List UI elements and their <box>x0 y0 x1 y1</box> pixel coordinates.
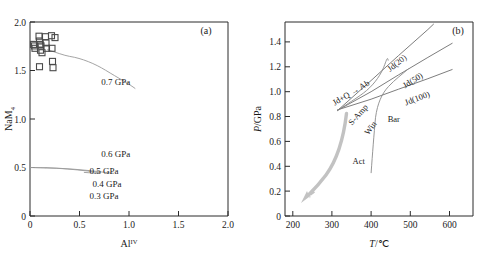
y-ticklabel: 1.5 <box>14 66 26 76</box>
y-ticklabel: 0 <box>21 212 26 222</box>
panel-a-axes <box>30 22 228 216</box>
panel-b-y-ticks: 0 0.2 0.4 0.6 0.8 1.0 1.2 1.4 <box>269 37 290 221</box>
panel-a-x-axis-title: AlIV <box>121 238 138 250</box>
facies-label-win: Win <box>362 119 379 137</box>
x-ticklabel: 0.5 <box>74 220 86 230</box>
y-ticklabel: 1.2 <box>269 62 281 72</box>
reaction-label-jd20: Jd(20) <box>385 52 408 73</box>
panel-a-plot: 0 0.5 1.0 1.5 2.0 0 0.5 1.0 1.5 2.0 AlIV <box>0 0 245 259</box>
x-ticklabel: 2.0 <box>222 220 234 230</box>
isopleth-label-0.4: 0.4 GPa <box>92 179 121 189</box>
x-ticklabel: 500 <box>403 220 418 230</box>
x-ticklabel: 1.0 <box>123 220 135 230</box>
data-point-marker <box>37 64 43 70</box>
panel-a-data-markers <box>31 33 59 71</box>
y-ticklabel: 2.0 <box>14 18 26 28</box>
y-ticklabel: 0.8 <box>269 112 281 122</box>
x-ticklabel: 0 <box>28 220 33 230</box>
facies-label-bar: Bar <box>388 114 400 124</box>
facies-label-act: Act <box>353 156 366 166</box>
y-ticklabel: 0.5 <box>14 163 26 173</box>
x-ticklabel: 400 <box>364 220 379 230</box>
panel-a-label: (a) <box>200 25 211 37</box>
panel-b-reaction-labels: Jd+Q → Ab Jd(20) Jd(50) Jd(100) <box>331 52 432 107</box>
isopleth-label-0.7: 0.7 GPa <box>101 77 130 87</box>
panel-b-x-ticks: 200 300 400 500 600 <box>286 211 457 230</box>
data-point-marker <box>50 58 56 64</box>
panel-b-x-axis-title: T/℃ <box>369 238 388 249</box>
x-ticklabel: 200 <box>286 220 301 230</box>
retrograde-pt-path-arrow <box>301 114 347 204</box>
panel-a-y-axis-title: NaM4 <box>3 106 16 131</box>
isopleth-label-0.5: 0.5 GPa <box>89 166 118 176</box>
panel-b-plot: 200 300 400 500 600 0 0.2 0.4 0.6 <box>245 0 491 259</box>
panel-b-facies-labels: S-Amp Win Bar Act <box>346 102 400 166</box>
isopleth-label-0.6: 0.6 GPa <box>101 149 130 159</box>
panel-b: 200 300 400 500 600 0 0.2 0.4 0.6 <box>245 0 491 259</box>
data-point-marker <box>43 34 49 40</box>
y-ticklabel: 1.0 <box>14 115 26 125</box>
x-ticklabel: 600 <box>442 220 457 230</box>
x-ticklabel: 1.5 <box>173 220 185 230</box>
y-ticklabel: 0.6 <box>269 137 281 147</box>
y-ticklabel: 1.0 <box>269 87 281 97</box>
y-ticklabel: 1.4 <box>269 37 281 47</box>
reaction-line-jd50 <box>337 43 452 110</box>
x-ticklabel: 300 <box>325 220 340 230</box>
figure-container: 0 0.5 1.0 1.5 2.0 0 0.5 1.0 1.5 2.0 AlIV <box>0 0 491 259</box>
reaction-label-jd100: Jd(100) <box>403 89 431 108</box>
panel-a-x-ticks: 0 0.5 1.0 1.5 2.0 <box>28 211 235 230</box>
panel-a-isopleth-labels: 0.7 GPa 0.6 GPa 0.5 GPa 0.4 GPa 0.3 GPa <box>89 77 130 201</box>
y-ticklabel: 0 <box>276 212 281 222</box>
y-ticklabel: 0.2 <box>269 187 281 197</box>
panel-b-axes <box>285 22 473 216</box>
isopleth-label-0.3: 0.3 GPa <box>89 191 118 201</box>
panel-b-label: (b) <box>452 25 464 37</box>
reaction-label-jd50: Jd(50) <box>401 70 425 90</box>
panel-b-y-axis-title: P/GPa <box>252 105 263 133</box>
panel-a: 0 0.5 1.0 1.5 2.0 0 0.5 1.0 1.5 2.0 AlIV <box>0 0 245 259</box>
y-ticklabel: 0.4 <box>269 162 281 172</box>
data-point-marker <box>50 65 56 71</box>
